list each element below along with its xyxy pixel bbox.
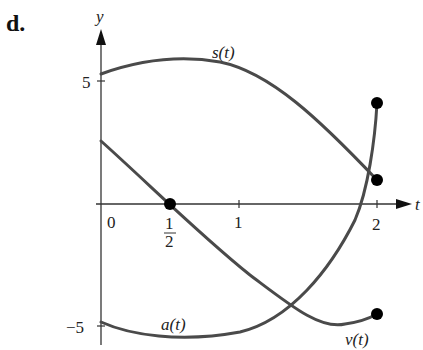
v-zero-marker [164,198,176,210]
s-curve [101,59,377,180]
x-tick-half: 1 2 [164,214,176,251]
s-label: s(t) [212,43,235,62]
y-axis-label: y [94,7,104,26]
a-end-marker [371,97,383,109]
svg-text:1: 1 [165,214,174,233]
axes [96,40,398,345]
x-tick-0: 0 [107,213,116,232]
s-end-marker [371,174,383,186]
v-end-marker [371,308,383,320]
v-curve [101,141,377,325]
x-tick-2: 2 [372,215,381,234]
x-axis-label: t [415,195,421,214]
motion-graph: y t 5 −5 0 1 2 1 2 s(t) v(t) a(t) [0,0,423,350]
x-axis-arrow-icon [396,199,412,209]
a-label: a(t) [161,315,186,334]
y-axis-arrow-icon [96,29,106,45]
x-tick-1: 1 [234,213,243,232]
y-tick-5: 5 [82,73,91,92]
y-tick-neg5: −5 [66,318,84,337]
svg-text:2: 2 [165,232,174,251]
v-label: v(t) [345,330,369,349]
